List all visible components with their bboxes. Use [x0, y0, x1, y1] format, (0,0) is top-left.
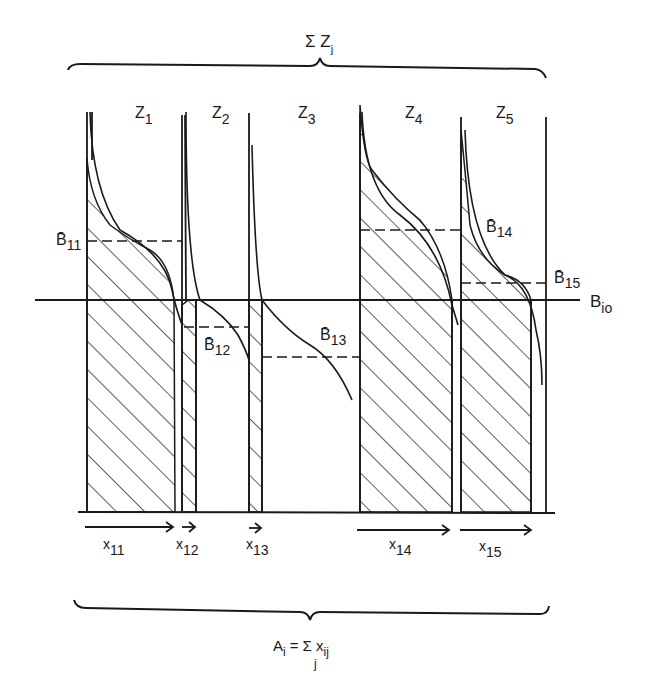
- svg-text:Z1: Z1: [135, 104, 153, 127]
- hatched-areas: [87, 105, 531, 512]
- bottom-brace-label: Ai= Σ xij: [273, 637, 329, 659]
- svg-text:x14: x14: [389, 536, 412, 558]
- svg-text:B̄13: B̄13: [320, 326, 346, 348]
- svg-text:x13: x13: [246, 536, 269, 558]
- svg-text:B̄15: B̄15: [554, 269, 580, 291]
- hatch-z5: [461, 130, 531, 512]
- svg-text:Z2: Z2: [212, 104, 230, 127]
- svg-text:B̄12: B̄12: [204, 336, 230, 358]
- hatch-z4: [360, 105, 452, 512]
- hatch-z3: [249, 300, 262, 512]
- hatch-z1: [87, 158, 175, 512]
- svg-text:x11: x11: [103, 536, 125, 558]
- bottom-brace-sum-index: j: [313, 657, 317, 671]
- top-brace-label: Σ Zj: [305, 32, 333, 55]
- allocation-diagram: Σ Zj Z1 Z2 Z3 Z4 Z5: [0, 0, 645, 700]
- bottom-brace: [74, 600, 549, 620]
- bottom-axis: [78, 512, 555, 513]
- svg-text:x15: x15: [479, 538, 502, 560]
- svg-text:Z5: Z5: [496, 104, 514, 127]
- column-labels: Z1 Z2 Z3 Z4 Z5: [135, 104, 514, 127]
- svg-text:B̄11: B̄11: [56, 231, 81, 253]
- svg-text:Z4: Z4: [405, 104, 423, 127]
- svg-text:x12: x12: [176, 536, 199, 558]
- hatch-z2: [182, 300, 196, 512]
- x-labels: x11 x12 x13 x14 x15: [103, 536, 502, 560]
- baseline-label: Bio: [590, 292, 612, 316]
- svg-text:Z3: Z3: [298, 104, 316, 127]
- allocation-arrows: [85, 522, 531, 535]
- top-brace: [68, 58, 546, 78]
- svg-text:B̄14: B̄14: [486, 218, 512, 240]
